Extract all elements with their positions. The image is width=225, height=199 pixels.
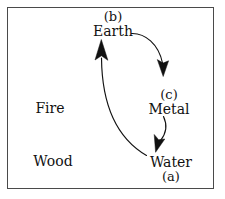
node-metal[interactable]: (c) Metal (140, 88, 198, 117)
node-fire[interactable]: Fire (20, 101, 80, 116)
node-wood[interactable]: Wood (20, 154, 86, 169)
node-water-label: Water (142, 155, 200, 170)
edge-earth-to-metal (132, 33, 169, 76)
edge-water-to-earth (95, 40, 147, 156)
node-metal-label: Metal (140, 102, 198, 117)
node-water-tag: (a) (142, 170, 200, 184)
node-wood-label: Wood (20, 154, 86, 169)
edge-metal-to-water (154, 117, 166, 153)
node-earth-tag: (b) (84, 10, 142, 24)
node-metal-tag: (c) (140, 88, 198, 102)
node-fire-label: Fire (20, 101, 80, 116)
node-earth[interactable]: (b) Earth (84, 10, 142, 39)
node-water[interactable]: Water (a) (142, 155, 200, 184)
diagram-canvas: (b) Earth (c) Metal Water (a) Fire Wood (0, 0, 225, 199)
node-earth-label: Earth (84, 24, 142, 39)
